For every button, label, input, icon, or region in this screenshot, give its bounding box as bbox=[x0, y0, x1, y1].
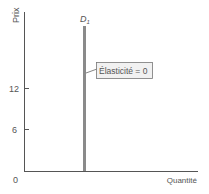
tick-label-6: 6 bbox=[12, 125, 17, 135]
demand-label: D1 bbox=[80, 14, 90, 25]
y-axis-label: Prix bbox=[11, 7, 21, 23]
x-axis-label: Quantité bbox=[167, 176, 198, 185]
tick-label-12: 12 bbox=[9, 84, 19, 94]
annotation-text: Élasticité = 0 bbox=[99, 66, 148, 76]
chart: Prix 12 6 0 Quantité D1 Élasticité = 0 bbox=[0, 0, 209, 194]
origin-label: 0 bbox=[13, 175, 18, 185]
annotation-leader bbox=[86, 69, 97, 73]
